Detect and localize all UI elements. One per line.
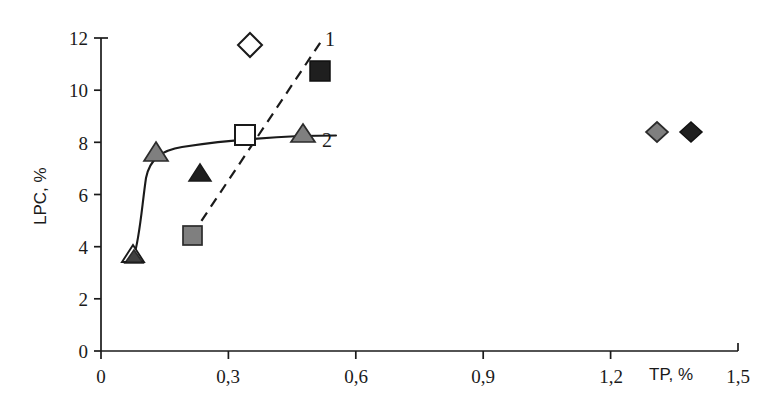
x-tick-label-1-5: 1,5 [713,367,763,386]
y-tick-label-8: 8 [58,134,88,153]
y-tick-label-6: 6 [58,186,88,205]
x-axis-ticks [101,351,611,359]
y-tick-label-10: 10 [48,81,88,100]
marker-black-triangle-mid [189,164,211,181]
x-tick-label-0: 0 [86,367,116,386]
marker-gray-triangle-right [291,124,315,142]
y-axis-title: LPC, % [32,167,49,225]
series-label-2: 2 [322,130,332,150]
x-tick-label-1-2: 1,2 [586,367,636,386]
marker-black-square [310,61,330,81]
marker-black-diamond [680,122,702,142]
y-tick-label-4: 4 [58,238,88,257]
marker-gray-square [183,226,202,245]
axis-lines [101,38,738,351]
x-tick-label-0-6: 0,6 [331,367,381,386]
y-tick-label-12: 12 [48,29,88,48]
y-axis-ticks [94,38,101,351]
marker-gray-diamond [646,122,668,142]
x-axis-title: TP, % [649,366,693,383]
chart-figure: 0 2 4 6 8 10 12 0 0,3 0,6 0,9 1,2 1,5 LP… [0,0,775,412]
marker-open-diamond [238,33,262,57]
marker-open-square [235,125,255,145]
y-tick-label-0: 0 [58,342,88,361]
x-tick-label-0-9: 0,9 [458,367,508,386]
chart-plot-svg [0,0,775,412]
series-label-1: 1 [325,29,335,49]
x-tick-label-0-3: 0,3 [203,367,253,386]
y-tick-label-2: 2 [58,290,88,309]
